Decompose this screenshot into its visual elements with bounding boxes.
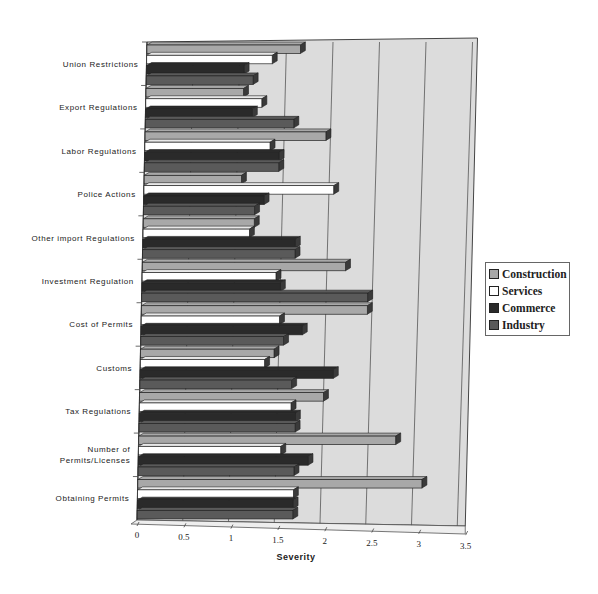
- category-label: Police Actions: [78, 190, 136, 199]
- bar: [143, 226, 254, 238]
- bar: [140, 356, 269, 368]
- bar: [143, 216, 259, 228]
- bar: [147, 63, 250, 75]
- bar: [146, 85, 248, 97]
- bar: [145, 150, 284, 162]
- legend: Construction Services Commerce Industry: [485, 262, 570, 336]
- bar: [142, 270, 281, 282]
- legend-swatch-commerce: [489, 303, 499, 313]
- bar: [141, 323, 307, 335]
- legend-swatch-industry: [489, 320, 499, 330]
- bar: [143, 236, 300, 248]
- bar: [147, 52, 277, 64]
- bar: [138, 454, 313, 466]
- bar: [146, 73, 258, 85]
- bar: [145, 129, 331, 141]
- bar: [141, 303, 372, 315]
- bar: [141, 313, 284, 325]
- category-label: Labor Regulations: [62, 147, 137, 156]
- category-label: Permits/Licenses: [60, 456, 131, 465]
- bar: [145, 139, 275, 151]
- bar: [139, 443, 286, 455]
- bar: [140, 390, 329, 402]
- bar: [144, 203, 260, 215]
- bar: [138, 477, 427, 489]
- category-label: Tax Regulations: [65, 407, 131, 416]
- bar: [142, 280, 285, 292]
- category-label: Number of: [88, 445, 131, 454]
- legend-item-services: Services: [489, 282, 566, 299]
- bar: [144, 183, 339, 195]
- category-label: Cost of Permits: [69, 320, 133, 329]
- bar: [137, 497, 298, 509]
- category-labels: Union RestrictionsExport RegulationsLabo…: [32, 42, 147, 503]
- bar: [142, 290, 373, 302]
- x-tick-label: 0: [135, 530, 140, 540]
- bar: [139, 400, 296, 412]
- bar: [144, 160, 283, 172]
- bar: [139, 410, 300, 422]
- bar: [138, 487, 299, 499]
- x-tick-label: 3.5: [460, 541, 472, 551]
- x-tick-label: 1: [229, 533, 234, 543]
- bar: [141, 346, 279, 358]
- bar: [139, 433, 401, 445]
- x-tick-label: 2: [323, 536, 328, 546]
- category-label: Union Restrictions: [63, 60, 139, 69]
- bar: [145, 116, 298, 128]
- bar: [144, 172, 246, 184]
- bar: [140, 377, 297, 389]
- x-tick-label: 0.5: [178, 532, 190, 542]
- category-label: Investment Regulation: [42, 277, 134, 286]
- bar: [140, 367, 338, 379]
- legend-swatch-construction: [489, 269, 499, 279]
- x-tick-label: 1.5: [272, 535, 284, 545]
- bar: [147, 42, 305, 54]
- legend-item-industry: Industry: [489, 316, 566, 333]
- bar: [146, 96, 267, 108]
- legend-item-commerce: Commerce: [489, 299, 566, 316]
- category-label: Obtaining Permits: [56, 494, 130, 503]
- category-label: Export Regulations: [59, 103, 137, 112]
- bar: [141, 334, 289, 346]
- bar: [137, 507, 298, 518]
- category-label: Customs: [96, 364, 132, 373]
- bar: [144, 193, 269, 205]
- legend-item-construction: Construction: [489, 265, 566, 282]
- bar: [143, 247, 300, 259]
- x-axis-title: Severity: [276, 552, 315, 562]
- bar: [139, 421, 300, 433]
- bar: [138, 464, 299, 476]
- legend-swatch-services: [489, 286, 499, 296]
- bar: [142, 259, 350, 271]
- category-label: Other import Regulations: [32, 234, 135, 243]
- x-tick-label: 3: [416, 539, 421, 549]
- x-tick-label: 2.5: [366, 538, 378, 548]
- bar: [146, 106, 258, 118]
